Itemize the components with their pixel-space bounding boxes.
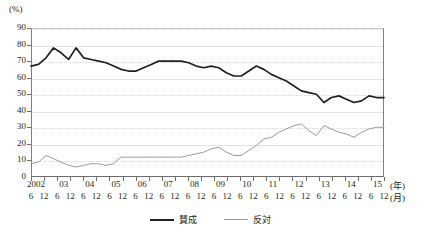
x-month-label-17: 12	[249, 191, 258, 201]
x-tick-mark-18	[266, 177, 267, 181]
x-month-label-20: 6	[290, 191, 295, 201]
y-tick-label-50: 50	[6, 88, 26, 98]
y-tick-label-30: 30	[6, 121, 26, 131]
gridline-70	[32, 62, 383, 63]
y-tick-mark-50	[27, 94, 31, 95]
legend-label-approve: 賛成	[179, 213, 198, 226]
x-month-label-11: 12	[170, 191, 179, 201]
y-tick-mark-70	[27, 61, 31, 62]
gridline-20	[32, 145, 383, 146]
x-tick-mark-2	[57, 177, 58, 181]
gridline-90	[32, 29, 383, 30]
x-month-label-14: 6	[212, 191, 217, 201]
x-tick-mark-5	[96, 177, 97, 181]
x-month-label-15: 12	[223, 191, 232, 201]
y-tick-mark-90	[27, 28, 31, 29]
x-tick-mark-22	[319, 177, 320, 181]
x-year-label-09: 09	[216, 179, 225, 189]
x-year-label-15: 15	[373, 179, 382, 189]
x-tick-mark-10	[162, 177, 163, 181]
x-tick-mark-27	[384, 177, 385, 181]
y-tick-mark-10	[27, 160, 31, 161]
x-axis-month-unit: (月)	[390, 191, 405, 204]
x-month-label-18: 6	[264, 191, 269, 201]
x-year-label-07: 07	[164, 179, 173, 189]
x-month-label-4: 6	[81, 191, 86, 201]
x-tick-mark-6	[109, 177, 110, 181]
x-tick-mark-20	[292, 177, 293, 181]
x-tick-mark-13	[201, 177, 202, 181]
x-month-label-6: 6	[107, 191, 112, 201]
gridline-10	[32, 161, 383, 162]
x-tick-mark-21	[306, 177, 307, 181]
y-tick-label-20: 20	[6, 138, 26, 148]
x-month-label-3: 12	[66, 191, 75, 201]
chart-legend: 賛成 反対	[0, 213, 421, 226]
x-month-label-21: 12	[301, 191, 310, 201]
x-tick-mark-4	[83, 177, 84, 181]
x-tick-mark-19	[279, 177, 280, 181]
y-tick-label-70: 70	[6, 55, 26, 65]
y-tick-label-90: 90	[6, 22, 26, 32]
x-year-label-14: 14	[347, 179, 356, 189]
x-year-label-11: 11	[269, 179, 278, 189]
y-tick-mark-40	[27, 111, 31, 112]
x-tick-mark-16	[240, 177, 241, 181]
x-month-label-0: 6	[29, 191, 34, 201]
plot-area	[31, 28, 384, 177]
x-month-label-9: 12	[144, 191, 153, 201]
y-tick-mark-30	[27, 127, 31, 128]
gridline-30	[32, 128, 383, 129]
x-month-label-24: 6	[343, 191, 348, 201]
chart-container: (%) 0102030405060708090 2002030405060708…	[0, 0, 421, 234]
legend-item-approve: 賛成	[150, 213, 198, 226]
y-tick-mark-60	[27, 78, 31, 79]
gridline-80	[32, 46, 383, 47]
x-tick-mark-9	[149, 177, 150, 181]
x-tick-mark-14	[214, 177, 215, 181]
x-month-label-19: 12	[275, 191, 284, 201]
x-year-label-12: 12	[295, 179, 304, 189]
x-month-label-25: 12	[353, 191, 362, 201]
legend-label-oppose: 反対	[253, 213, 272, 226]
x-year-label-04: 04	[85, 179, 94, 189]
x-month-label-22: 6	[316, 191, 321, 201]
y-axis-unit-label: (%)	[9, 4, 23, 14]
x-year-label-2002: 2002	[27, 179, 45, 189]
x-tick-mark-25	[358, 177, 359, 181]
x-tick-mark-17	[253, 177, 254, 181]
x-month-label-8: 6	[133, 191, 138, 201]
legend-item-oppose: 反対	[224, 213, 272, 226]
y-tick-label-0: 0	[6, 171, 26, 181]
x-tick-mark-23	[332, 177, 333, 181]
gridline-50	[32, 95, 383, 96]
x-month-label-12: 6	[186, 191, 191, 201]
y-tick-label-40: 40	[6, 105, 26, 115]
gridline-40	[32, 112, 383, 113]
x-month-label-1: 12	[40, 191, 49, 201]
y-tick-label-10: 10	[6, 154, 26, 164]
x-year-label-03: 03	[59, 179, 68, 189]
x-tick-mark-15	[227, 177, 228, 181]
x-month-label-10: 6	[159, 191, 164, 201]
gridline-60	[32, 79, 383, 80]
x-month-label-5: 12	[92, 191, 101, 201]
x-month-label-27: 12	[380, 191, 389, 201]
x-month-label-23: 12	[327, 191, 336, 201]
x-month-label-26: 6	[369, 191, 374, 201]
x-tick-mark-8	[136, 177, 137, 181]
y-tick-label-60: 60	[6, 72, 26, 82]
y-tick-mark-20	[27, 144, 31, 145]
x-month-label-7: 12	[118, 191, 127, 201]
x-year-label-10: 10	[242, 179, 251, 189]
x-tick-mark-24	[345, 177, 346, 181]
x-tick-mark-3	[70, 177, 71, 181]
legend-swatch-oppose-icon	[224, 219, 248, 220]
y-tick-label-80: 80	[6, 39, 26, 49]
x-month-label-13: 12	[196, 191, 205, 201]
x-year-label-08: 08	[190, 179, 199, 189]
x-tick-mark-7	[123, 177, 124, 181]
x-year-label-13: 13	[321, 179, 330, 189]
legend-swatch-approve-icon	[150, 219, 174, 221]
x-year-label-05: 05	[111, 179, 120, 189]
